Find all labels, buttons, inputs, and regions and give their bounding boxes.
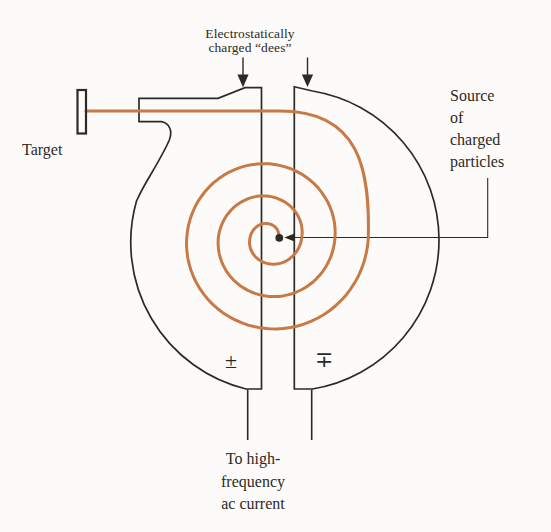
- ac-current-label: To high- frequency ac current: [178, 448, 328, 516]
- target-label: Target: [22, 141, 62, 159]
- right-dee-polarity-symbol: ∓: [315, 347, 333, 372]
- left-dee-outline: [131, 88, 262, 389]
- ac-label-line2: frequency: [178, 471, 328, 494]
- source-label-line4: particles: [450, 151, 504, 173]
- particle-beam-spiral: [86, 111, 368, 329]
- dee-arrow-right-head-icon: [302, 75, 313, 87]
- source-pointer-line: [294, 178, 488, 238]
- dees-label-line1: Electrostatically: [144, 27, 356, 41]
- left-dee-polarity-symbol: ±: [225, 348, 237, 373]
- ac-label-line3: ac current: [178, 493, 328, 516]
- ac-label-line1: To high-: [178, 448, 328, 471]
- source-label: Source of charged particles: [450, 85, 504, 173]
- dees-label: Electrostatically charged “dees”: [144, 27, 356, 55]
- source-label-line1: Source: [450, 85, 504, 107]
- source-label-line3: charged: [450, 129, 504, 151]
- dees-label-line2: charged “dees”: [144, 41, 356, 55]
- source-label-line2: of: [450, 107, 504, 129]
- dee-arrow-left-head-icon: [237, 75, 248, 88]
- particle-source-dot: [275, 234, 283, 242]
- cyclotron-diagram: Electrostatically charged “dees” Target …: [0, 0, 551, 532]
- source-pointer-arrowhead-icon: [284, 234, 294, 242]
